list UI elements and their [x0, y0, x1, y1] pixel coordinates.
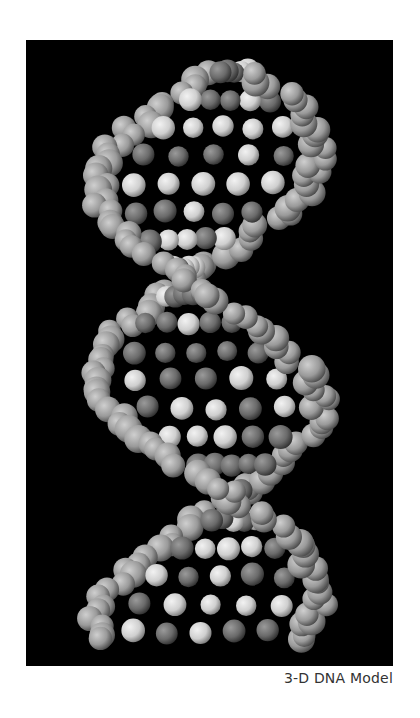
dna-helix-rendering: [26, 40, 393, 666]
dna-model-image: [26, 40, 393, 666]
figure-caption: 3-D DNA Model: [284, 670, 393, 686]
